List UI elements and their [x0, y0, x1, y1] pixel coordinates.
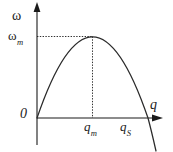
q-s-tick-label: qS: [120, 120, 131, 136]
omega-m-subscript: m: [17, 37, 23, 47]
q-m-tick-label: qm: [84, 120, 97, 136]
q-s-base: q: [120, 119, 127, 134]
origin-label: 0: [20, 107, 27, 121]
y-axis-arrowhead: [34, 2, 41, 12]
x-axis-label: q: [150, 98, 157, 112]
q-m-base: q: [84, 119, 91, 134]
omega-m-base: ω: [8, 28, 17, 43]
q-s-subscript: S: [127, 128, 131, 138]
q-m-subscript: m: [91, 128, 97, 138]
figure-container: ω ωm 0 q qm qS: [0, 0, 173, 152]
x-axis-arrowhead: [152, 114, 163, 121]
y-axis-label: ω: [12, 9, 21, 23]
omega-m-tick-label: ωm: [8, 29, 23, 45]
